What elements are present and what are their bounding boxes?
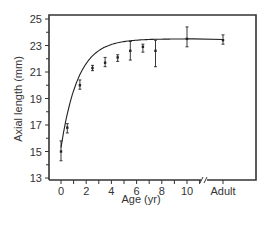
- data-point: [104, 57, 107, 66]
- point-marker: [104, 62, 106, 64]
- fit-curve: [61, 39, 223, 148]
- data-point: [154, 40, 157, 66]
- point-marker: [129, 50, 131, 52]
- data-point: [222, 35, 225, 44]
- point-marker: [142, 46, 144, 48]
- data-points: [60, 27, 225, 161]
- point-marker: [66, 126, 68, 128]
- point-marker: [154, 50, 156, 52]
- x-axis-label: Age (yr): [121, 193, 160, 205]
- y-axis: 13151719212325: [30, 13, 49, 184]
- y-tick-label: 13: [30, 172, 42, 184]
- fit-curve-line: [61, 39, 223, 148]
- y-tick-label: 23: [30, 40, 42, 52]
- data-point: [141, 44, 144, 52]
- y-tick-label: 17: [30, 119, 42, 131]
- axis-break-icon: [204, 177, 207, 183]
- data-point: [116, 55, 119, 62]
- x-tick-label: 2: [83, 185, 89, 197]
- point-marker: [91, 67, 93, 69]
- point-marker: [117, 56, 119, 58]
- axial-length-chart: 13151719212325 0246810Adult Axial length…: [0, 0, 271, 226]
- data-point: [129, 42, 132, 61]
- data-point: [91, 65, 94, 70]
- y-tick-label: 15: [30, 146, 42, 158]
- data-point: [186, 27, 189, 47]
- x-tick-label: 4: [108, 185, 114, 197]
- point-marker: [79, 84, 81, 86]
- y-tick-label: 25: [30, 13, 42, 25]
- y-tick-label: 21: [30, 66, 42, 78]
- point-marker: [186, 38, 188, 40]
- x-tick-label: Adult: [210, 185, 235, 197]
- data-point: [78, 80, 81, 89]
- point-marker: [222, 39, 224, 41]
- y-tick-label: 19: [30, 93, 42, 105]
- x-tick-label: 0: [58, 185, 64, 197]
- plot-frame: [49, 15, 256, 183]
- x-tick-label: 10: [181, 185, 193, 197]
- y-axis-label: Axial length (mm): [12, 56, 24, 142]
- point-marker: [60, 150, 62, 152]
- data-point: [66, 124, 69, 133]
